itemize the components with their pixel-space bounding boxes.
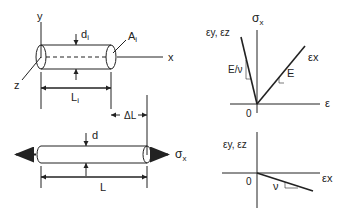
stress-strain-chart bbox=[230, 30, 320, 113]
right-end-cap bbox=[106, 45, 116, 69]
loaded-length-label: L bbox=[100, 181, 106, 193]
x-axis-label: x bbox=[168, 51, 174, 63]
loaded-bar bbox=[37, 133, 151, 188]
lateral-slope-label: E/ν bbox=[228, 64, 242, 75]
z-axis-label: z bbox=[14, 79, 20, 91]
axial-slope-label: E bbox=[287, 67, 294, 79]
lateral-strain-line bbox=[241, 37, 257, 104]
elongation-label: ΔL bbox=[124, 110, 137, 121]
axial-strain-line bbox=[257, 46, 305, 104]
stress-label: σx bbox=[175, 147, 186, 163]
lateral-curve-label: εy, εz bbox=[206, 27, 230, 38]
z-axis-line bbox=[22, 57, 41, 80]
initial-diameter-label: di bbox=[81, 28, 89, 42]
initial-bar bbox=[22, 22, 163, 109]
origin-label-bottom: 0 bbox=[246, 176, 252, 187]
axial-slope-triangle bbox=[279, 77, 284, 83]
area-leader bbox=[113, 40, 126, 53]
sigma-axis-label: σx bbox=[252, 11, 263, 27]
poisson-effect-figure: y x z di Ai Li ΔL d L σx σx ε 0 ε bbox=[0, 0, 350, 219]
initial-area-label: Ai bbox=[128, 30, 137, 44]
axial-axis-label: εx bbox=[322, 172, 333, 184]
figure-svg: y x z di Ai Li ΔL d L σx σx ε 0 ε bbox=[0, 0, 350, 219]
epsilon-axis-label: ε bbox=[325, 97, 330, 109]
poisson-slope-label: ν bbox=[273, 180, 279, 192]
lateral-axis-label: εy, εz bbox=[223, 139, 247, 150]
y-axis-label: y bbox=[37, 10, 43, 22]
loaded-diameter-label: d bbox=[92, 129, 98, 141]
initial-length-label: Li bbox=[71, 91, 79, 105]
origin-label-top: 0 bbox=[246, 108, 252, 119]
axial-curve-label: εx bbox=[308, 51, 319, 63]
